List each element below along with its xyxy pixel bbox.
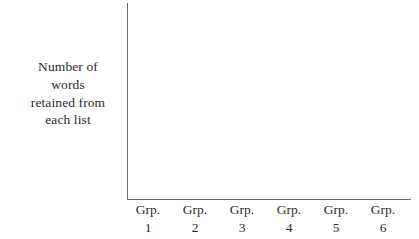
x-tick-label-1: Grp. 1	[125, 201, 171, 237]
y-axis-title: Number of words retained from each list	[6, 58, 130, 129]
x-tick-label-5-number: 5	[313, 219, 359, 237]
x-tick-label-2-number: 2	[172, 219, 218, 237]
x-tick-label-3-name: Grp.	[219, 201, 265, 219]
x-tick-label-3: Grp. 3	[219, 201, 265, 237]
x-tick-label-1-name: Grp.	[125, 201, 171, 219]
x-tick-label-4-name: Grp.	[266, 201, 312, 219]
x-tick-label-4-number: 4	[266, 219, 312, 237]
y-axis-title-line-3: retained from	[6, 94, 130, 112]
x-tick-label-5: Grp. 5	[313, 201, 359, 237]
x-tick-label-6: Grp. 6	[360, 201, 406, 237]
x-tick-label-4: Grp. 4	[266, 201, 312, 237]
plot-area	[128, 3, 411, 199]
x-tick-label-3-number: 3	[219, 219, 265, 237]
x-tick-label-6-name: Grp.	[360, 201, 406, 219]
y-axis-title-line-1: Number of	[6, 58, 130, 76]
x-tick-label-6-number: 6	[360, 219, 406, 237]
x-tick-label-2: Grp. 2	[172, 201, 218, 237]
x-axis-line	[127, 199, 411, 200]
y-axis-title-line-4: each list	[6, 111, 130, 129]
x-tick-label-5-name: Grp.	[313, 201, 359, 219]
x-tick-label-1-number: 1	[125, 219, 171, 237]
y-axis-title-line-2: words	[6, 76, 130, 94]
x-tick-label-2-name: Grp.	[172, 201, 218, 219]
chart-figure: Number of words retained from each list …	[0, 0, 419, 239]
x-axis-tick-labels: Grp. 1 Grp. 2 Grp. 3 Grp. 4 Grp. 5 Grp. …	[127, 201, 411, 239]
